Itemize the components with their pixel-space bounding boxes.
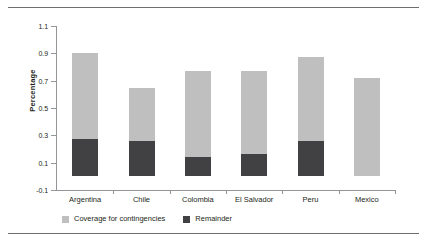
legend-item[interactable]: Remainder [183,215,232,223]
legend-label: Remainder [195,215,232,223]
bar-segment-coverage[interactable] [298,57,324,140]
bottom-rule [8,233,419,234]
bar-segment-coverage[interactable] [241,71,267,154]
bar-segment-coverage[interactable] [185,71,211,157]
x-axis-tick [339,190,340,194]
top-rule [8,7,419,8]
bar-segment-remainder[interactable] [185,157,211,176]
plot-area [57,26,395,190]
bar-segment-coverage[interactable] [354,78,380,176]
bar-stack[interactable] [298,57,324,176]
chart-legend: Coverage for contingenciesRemainder [62,215,232,223]
x-axis-tick [282,190,283,194]
bar-stack[interactable] [185,71,211,176]
x-axis-tick [113,190,114,194]
bar-segment-remainder[interactable] [298,141,324,177]
x-axis-tick [226,190,227,194]
y-axis-tick [51,53,56,54]
y-axis-tick-label: 0.5 [18,105,48,112]
bar-segment-coverage[interactable] [129,88,155,141]
bar-segment-remainder[interactable] [129,141,155,177]
bar-segment-remainder[interactable] [241,154,267,176]
bar-segment-coverage[interactable] [72,53,98,139]
bar-stack[interactable] [72,53,98,176]
bar-stack[interactable] [354,78,380,176]
x-axis-tick [395,190,396,194]
bar-stack[interactable] [241,71,267,176]
y-axis-tick [51,108,56,109]
y-axis-tick [51,81,56,82]
y-axis-tick-label: -0.1 [18,187,48,194]
bar-stack[interactable] [129,88,155,177]
y-axis-tick-label: 0.3 [18,132,48,139]
x-axis-tick-label: Mexico [322,195,412,204]
legend-swatch-icon [183,216,190,223]
y-axis-tick-label: 1.1 [18,23,48,30]
y-axis-tick [51,190,56,191]
legend-label: Coverage for contingencies [74,215,165,223]
x-axis-tick [170,190,171,194]
y-axis-tick-label: 0.1 [18,160,48,167]
y-axis-title: Percentage [28,51,37,131]
bar-segment-remainder[interactable] [72,139,98,176]
y-axis-tick [51,163,56,164]
y-axis-tick [51,26,56,27]
chart-figure: Percentage 1.10.90.70.50.30.1-0.1 Argent… [0,0,427,241]
y-axis-tick-label: 0.7 [18,78,48,85]
legend-item[interactable]: Coverage for contingencies [62,215,165,223]
legend-swatch-icon [62,216,69,223]
y-axis-tick-label: 0.9 [18,50,48,57]
y-axis-tick [51,135,56,136]
